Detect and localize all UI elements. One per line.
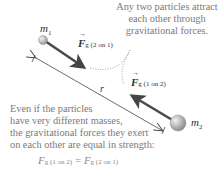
- annotation-top-line-1: Any two particles attract: [114, 1, 220, 13]
- distance-label: r: [100, 83, 104, 94]
- equation-lhs-subscript: g (1 on 2): [45, 158, 72, 166]
- annotation-top-line-2: each other through: [114, 13, 220, 25]
- annotation-top-line-3: gravitational forces.: [114, 25, 220, 37]
- mass-2-label: m2: [191, 116, 202, 131]
- equation-rhs-symbol: F: [84, 154, 91, 166]
- equation-lhs-symbol: F: [38, 154, 45, 166]
- force-subscript-f12: g (1 on 2): [138, 80, 165, 88]
- annotation-bottom-line-3: the gravitational forces they exert: [10, 127, 155, 139]
- force-label-1-on-2: →Fg (1 on 2): [131, 76, 166, 88]
- callout-dotted-2: [122, 50, 130, 84]
- annotation-bottom-line-4: on each other are equal in strength:: [10, 139, 155, 151]
- equation-rhs-subscript: g (2 on 1): [91, 158, 118, 166]
- mass-2-subscript: 2: [199, 123, 203, 131]
- vector-symbol-f12: →F: [131, 76, 138, 88]
- annotation-bottom-line-1: Even if the particles: [10, 103, 155, 115]
- mass-1-symbol: m: [40, 22, 48, 34]
- annotation-top: Any two particles attract each other thr…: [114, 1, 220, 37]
- mass-2-symbol: m: [191, 116, 199, 128]
- mass-1-subscript: 1: [48, 29, 52, 37]
- distance-tick-start: [32, 55, 35, 62]
- force-label-2-on-1: →Fg (2 on 1): [78, 37, 113, 49]
- annotation-bottom: Even if the particles have very differen…: [10, 103, 155, 151]
- annotation-bottom-line-2: have very different masses,: [10, 115, 155, 127]
- mass-1-label: m1: [40, 22, 51, 37]
- force-symbol-f21: F: [78, 37, 85, 49]
- vector-symbol-f21: →F: [78, 37, 85, 49]
- callout-dotted-1: [90, 50, 130, 70]
- force-subscript-f21: g (2 on 1): [85, 41, 112, 49]
- equal-force-equation: Fg (1 on 2) = Fg (2 on 1): [38, 154, 118, 166]
- force-arrow-2-on-1: [45, 41, 82, 66]
- equation-equals: =: [75, 154, 81, 166]
- mass-2-sphere: [170, 115, 186, 131]
- force-symbol-f12: F: [131, 76, 138, 88]
